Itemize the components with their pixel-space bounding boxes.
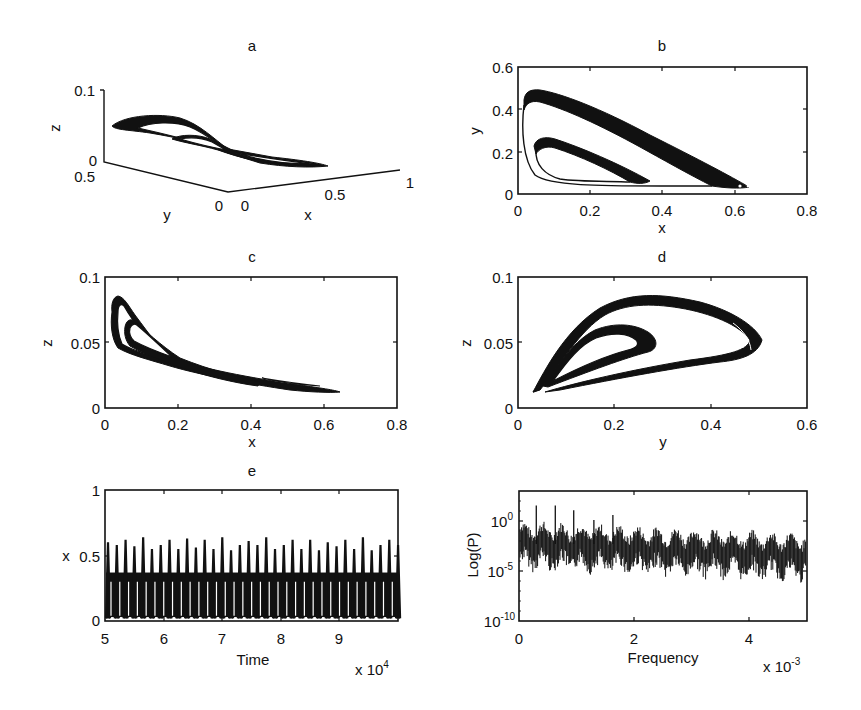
panel-b-x-tick-0.6: 0.6 [725,202,746,219]
panel-d-y-tick-0: 0 [505,400,513,417]
panel-f-x-label: Frequency [628,649,699,666]
panel-f-y-tick-1e0: 100 [491,511,514,530]
panel-b-x-tick-0: 0 [514,202,522,219]
panel-a-z-label: z [46,124,63,132]
panel-a-x-tick-0.5: 0.5 [325,186,346,203]
panel-f-x-tick-4: 4 [745,630,753,647]
panel-b-x-label: x [658,219,666,236]
panel-e-y-label: x [62,547,70,564]
panel-e-y-tick-0.5: 0.5 [79,548,100,565]
panel-f-y-tick-1e-10: 10-10 [484,611,516,630]
panel-d-title: d [658,248,666,265]
panel-e-x-multiplier: x 104 [355,659,389,678]
panel-e-x-tick-9: 9 [335,630,343,647]
panel-d-x-tick-0: 0 [514,416,522,433]
panel-d-x-tick-0.2: 0.2 [604,416,625,433]
panel-b: b 0.6 0.4 0.2 0 0 0.2 0.4 0.6 0.8 x y [466,37,817,236]
panel-c-x-tick-0.8: 0.8 [387,416,408,433]
panel-a-z-tick-0.1: 0.1 [74,82,95,99]
panel-a: a 0.1 0 0.5 0 0 0.5 1 z y x [46,37,414,223]
panel-b-y-tick-0.2: 0.2 [492,145,513,162]
panel-d-trajectory [533,296,762,392]
panel-c-trajectory [111,296,340,392]
panel-f-x-tick-0: 0 [515,630,523,647]
panel-e-x-tick-7: 7 [218,630,226,647]
panel-c-y-label: z [38,339,55,347]
panel-a-x-tick-1: 1 [406,174,414,191]
panel-a-y-tick-0.5: 0.5 [74,168,95,185]
panel-a-y-tick-0: 0 [215,197,223,214]
panel-c-x-tick-0.4: 0.4 [241,416,262,433]
panel-d: d 0.1 0.05 0 0 0.2 0.4 0.6 y z [457,248,817,450]
panel-b-title: b [658,37,666,54]
panel-a-x-tick-0: 0 [241,197,249,214]
panel-b-x-tick-0.2: 0.2 [580,202,601,219]
panel-a-z-tick-0: 0 [89,152,97,169]
panel-d-x-tick-0.4: 0.4 [701,416,722,433]
panel-a-trajectory [112,115,328,167]
panel-b-y-tick-0.6: 0.6 [492,59,513,76]
panel-f-x-tick-2: 2 [630,630,638,647]
panel-b-y-tick-0: 0 [505,186,513,203]
panel-e: e 1 0.5 0 5 6 7 8 9 Time x 104 x [62,462,400,678]
panel-e-y-tick-0: 0 [92,612,100,629]
panel-d-y-label: z [457,339,474,347]
panel-c: c 0.1 0.05 0 0 0.2 0.4 0.6 0.8 x z [38,248,407,450]
panel-b-y-label: y [466,127,483,135]
panel-c-x-label: x [248,433,256,450]
panel-b-trajectory [523,90,750,188]
panel-c-x-tick-0.2: 0.2 [168,416,189,433]
panel-f-series [520,505,806,582]
panel-e-series [106,537,400,618]
panel-e-x-tick-5: 5 [101,630,109,647]
panel-d-x-tick-0.6: 0.6 [797,416,818,433]
panel-c-y-tick-0: 0 [92,400,100,417]
panel-a-title: a [248,37,257,54]
panel-d-y-tick-0.1: 0.1 [492,269,513,286]
panel-e-x-tick-8: 8 [277,630,285,647]
panel-f: 100 10-5 10-10 0 2 4 Frequency x 10-3 Lo… [464,491,807,675]
panel-f-x-multiplier: x 10-3 [763,656,801,675]
panel-a-axes [104,90,400,192]
panel-f-y-label: Log(P) [464,532,481,577]
panel-b-x-tick-0.4: 0.4 [652,202,673,219]
panel-d-y-tick-0.05: 0.05 [484,335,513,352]
panel-b-y-tick-0.4: 0.4 [492,102,513,119]
panel-e-y-tick-1: 1 [92,482,100,499]
figure-canvas: a 0.1 0 0.5 0 0 0.5 1 z y x b 0.6 [0,0,861,710]
panel-c-title: c [248,248,256,265]
panel-c-y-tick-0.1: 0.1 [79,269,100,286]
panel-b-axes-box [518,67,807,194]
panel-c-y-tick-0.05: 0.05 [71,335,100,352]
panel-c-x-tick-0: 0 [101,416,109,433]
panel-e-x-label: Time [237,651,270,668]
panel-c-x-tick-0.6: 0.6 [314,416,335,433]
panel-d-x-label: y [659,433,667,450]
panel-a-y-label: y [163,206,171,223]
panel-f-y-tick-1e-5: 10-5 [487,561,513,580]
panel-e-x-tick-6: 6 [160,630,168,647]
panel-b-x-tick-0.8: 0.8 [797,202,818,219]
panel-e-title: e [248,462,256,479]
panel-a-x-label: x [304,206,312,223]
